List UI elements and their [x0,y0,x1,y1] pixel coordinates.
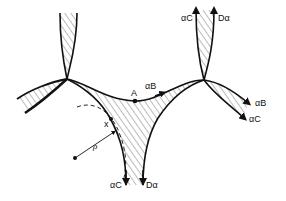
label-top-left-arrow: αC [181,13,193,23]
label-radius: ρ [92,141,98,151]
label-bottom-right-arrow: Dα [146,180,158,190]
label-right-upper: αB [255,98,266,108]
point-x-marker [109,117,113,121]
label-right-lower: αC [249,114,261,124]
label-bottom-left-arrow: αC [110,180,122,190]
label-top-right-arrow: Dα [218,13,230,23]
point-a-marker [133,99,138,104]
right-branch [204,80,248,118]
label-middle-flow: αB [145,81,156,91]
label-point-x: x [104,119,109,129]
top-right-channel [196,10,214,80]
label-point-a: A [131,88,137,98]
top-left-channel [60,13,77,79]
left-branch [17,79,67,113]
diagram-canvas: αC Dα A αB αB αC αC Dα x ρ [0,0,286,201]
